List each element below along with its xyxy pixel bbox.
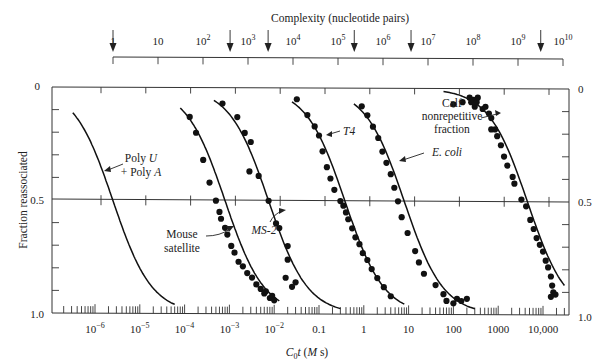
data-point-mouse-satellite xyxy=(200,157,206,163)
data-point-calf-nonrepetitive-fraction xyxy=(531,226,537,232)
x-tick-label: 10−4 xyxy=(175,321,195,335)
svg-text:nonrepetitive: nonrepetitive xyxy=(422,110,483,123)
data-point-e-coli xyxy=(412,248,418,254)
annotation-ms2: MS-2 xyxy=(251,208,286,236)
data-point-t4 xyxy=(316,132,322,138)
top-tick-label: 104 xyxy=(286,33,301,47)
data-point-e-coli xyxy=(399,214,405,220)
data-point-e-coli xyxy=(416,259,422,265)
x-tick-label: 10−2 xyxy=(264,321,284,335)
data-point-calf-nonrepetitive-fraction xyxy=(527,217,533,223)
data-point-mouse-satellite xyxy=(263,288,269,294)
data-point-calf-nonrepetitive-fraction xyxy=(498,142,504,148)
bottom-axis-tick-labels: 10−610−510−410−310−20.1110100100010,000 xyxy=(85,321,558,335)
data-point-mouse-satellite xyxy=(228,243,234,249)
svg-text:fraction: fraction xyxy=(434,123,470,135)
data-point-mouse-satellite xyxy=(206,179,212,185)
svg-text:MS-2: MS-2 xyxy=(251,224,277,236)
data-point-e-coli xyxy=(391,185,397,191)
data-point-e-coli xyxy=(432,282,438,288)
arrowhead-icon xyxy=(351,43,358,52)
data-point-e-coli xyxy=(421,271,427,277)
curve-poly-u-poly-a xyxy=(73,113,175,305)
data-point-t4 xyxy=(304,112,310,118)
top-tick-label: 107 xyxy=(421,33,436,47)
top-axis-ticks: 1101021031041051061071081091010 xyxy=(110,33,572,66)
data-point-calf-nonrepetitive-fraction xyxy=(548,294,554,300)
annotation-t4: T4 xyxy=(326,125,355,137)
y-label-right-0.5: 0.5 xyxy=(578,196,592,208)
top-tick-label: 109 xyxy=(511,33,526,47)
data-point-t4 xyxy=(331,187,337,193)
y-label-left-0.5: 0.5 xyxy=(30,194,44,206)
curve-ms-2 xyxy=(214,100,341,308)
top-tick-label: 108 xyxy=(466,33,481,47)
x-tick-label: 10−3 xyxy=(220,321,240,335)
data-point-ms-2 xyxy=(285,257,291,263)
data-point-ms-2 xyxy=(266,198,272,204)
x-axis-title: C0t (M s) xyxy=(286,346,329,361)
data-point-e-coli xyxy=(379,148,385,154)
arrow-icon xyxy=(403,153,424,160)
top-tick-label: 103 xyxy=(241,33,256,47)
data-point-t4 xyxy=(352,234,358,240)
data-point-e-coli xyxy=(364,112,370,118)
data-point-t4 xyxy=(294,96,300,102)
data-point-e-coli xyxy=(464,296,470,302)
data-point-ms-2 xyxy=(256,173,262,179)
top-complexity-axis: Complexity (nucleotide pairs) 1101021031… xyxy=(110,12,573,66)
data-point-e-coli xyxy=(405,230,411,236)
data-point-t4 xyxy=(327,175,333,181)
data-point-t4 xyxy=(319,148,325,154)
data-point-t4 xyxy=(343,209,349,215)
svg-text:T4: T4 xyxy=(343,125,355,137)
data-point-calf-nonrepetitive-fraction xyxy=(549,282,555,288)
data-point-mouse-satellite xyxy=(271,297,277,303)
svg-text:+ Poly A: + Poly A xyxy=(121,166,162,179)
data-point-e-coli xyxy=(359,103,365,109)
data-point-e-coli xyxy=(370,124,376,130)
data-point-mouse-satellite xyxy=(244,270,250,276)
data-point-t4 xyxy=(340,203,346,209)
data-point-ms-2 xyxy=(246,168,252,174)
data-point-calf-nonrepetitive-fraction xyxy=(543,258,549,264)
data-point-calf-nonrepetitive-fraction xyxy=(548,273,554,279)
data-point-ms-2 xyxy=(248,139,254,145)
y-label-right-1.0: 1.0 xyxy=(578,311,592,323)
data-point-ms-2 xyxy=(219,100,225,106)
annotation-poly-u-a: Poly U + Poly A xyxy=(104,152,162,179)
y-axis-title: Fraction reassociated xyxy=(17,151,29,249)
data-point-mouse-satellite xyxy=(249,275,255,281)
top-axis-title: Complexity (nucleotide pairs) xyxy=(271,12,409,25)
data-point-t4 xyxy=(364,257,370,263)
data-point-calf-nonrepetitive-fraction xyxy=(534,235,540,241)
data-point-ms-2 xyxy=(276,225,282,231)
y-label-left-1.0: 1.0 xyxy=(30,308,44,320)
data-point-mouse-satellite xyxy=(253,281,259,287)
data-point-ms-2 xyxy=(289,284,295,290)
x-tick-label: 0.1 xyxy=(312,323,326,335)
top-tick-label: 105 xyxy=(331,33,346,47)
top-tick-label: 1010 xyxy=(554,33,573,47)
x-tick-label: 10 xyxy=(403,323,415,335)
cot-curve-chart: Complexity (nucleotide pairs) 1101021031… xyxy=(0,0,613,362)
data-point-calf-nonrepetitive-fraction xyxy=(475,95,481,101)
svg-text:Poly U: Poly U xyxy=(125,152,158,165)
data-point-mouse-satellite xyxy=(218,216,224,222)
arrowhead-icon xyxy=(537,43,544,52)
data-point-t4 xyxy=(374,275,380,281)
data-point-t4 xyxy=(312,123,318,129)
data-point-calf-nonrepetitive-fraction xyxy=(510,174,516,180)
arrowhead-icon xyxy=(495,110,501,116)
data-point-e-coli xyxy=(383,160,389,166)
top-tick-label: 10 xyxy=(153,35,165,47)
data-point-mouse-satellite xyxy=(216,209,222,215)
data-point-e-coli xyxy=(440,291,446,297)
arrowhead-icon xyxy=(265,43,272,52)
y-label-left-0: 0 xyxy=(35,80,41,92)
data-point-t4 xyxy=(345,216,351,222)
x-tick-label: 10−5 xyxy=(130,321,150,335)
data-point-calf-nonrepetitive-fraction xyxy=(518,196,524,202)
annotation-e-coli: E. coli xyxy=(399,146,462,162)
x-tick-label: 100 xyxy=(445,323,462,335)
